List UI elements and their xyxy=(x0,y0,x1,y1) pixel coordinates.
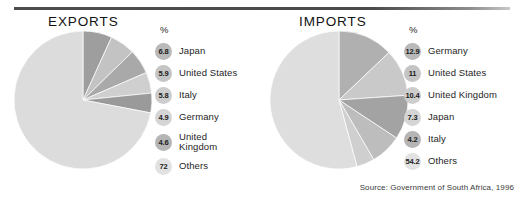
exports-pie-svg xyxy=(13,30,153,170)
imports-legend-rows: 12.9Germany11United States10.4United Kin… xyxy=(404,41,497,172)
imports-legend-item: 12.9Germany xyxy=(404,41,497,62)
imports-legend-label: Germany xyxy=(428,46,468,57)
imports-legend-value-badge: 7.3 xyxy=(404,109,421,126)
header-rule xyxy=(14,7,510,10)
exports-legend-item: 72Others xyxy=(155,156,237,177)
exports-legend-item: 4.9Germany xyxy=(155,107,237,128)
clipped-top-text xyxy=(180,0,360,2)
imports-legend-label: United States xyxy=(428,68,486,79)
exports-legend-label: Italy xyxy=(179,90,197,101)
source-note: Source: Government of South Africa, 1996 xyxy=(360,183,514,192)
imports-legend-item: 54.2Others xyxy=(404,151,497,172)
exports-legend: % 6.8Japan5.9United States5.8Italy4.9Ger… xyxy=(155,24,237,178)
imports-legend-value-badge: 54.2 xyxy=(404,153,421,170)
imports-legend-item: 7.3Japan xyxy=(404,107,497,128)
exports-legend-value-badge: 6.8 xyxy=(155,43,172,60)
exports-legend-label: Germany xyxy=(179,112,219,123)
exports-legend-value-badge: 4.6 xyxy=(155,134,172,151)
exports-legend-item: 4.6United Kingdom xyxy=(155,129,237,155)
exports-legend-rows: 6.8Japan5.9United States5.8Italy4.9Germa… xyxy=(155,41,237,177)
infographic-root: EXPORTS % 6.8Japan5.9United States5.8Ita… xyxy=(0,0,520,197)
imports-legend-label: United Kingdom xyxy=(428,90,497,101)
imports-pie-chart xyxy=(269,30,409,174)
imports-percent-header: % xyxy=(409,24,497,35)
exports-legend-value-badge: 5.8 xyxy=(155,87,172,104)
exports-legend-label: United States xyxy=(179,68,237,79)
exports-legend-value-badge: 4.9 xyxy=(155,109,172,126)
exports-legend-item: 5.8Italy xyxy=(155,85,237,106)
imports-legend-label: Others xyxy=(428,156,457,167)
exports-legend-label: Japan xyxy=(179,46,205,57)
exports-legend-value-badge: 5.9 xyxy=(155,65,172,82)
imports-legend-label: Japan xyxy=(428,112,454,123)
imports-legend-value-badge: 12.9 xyxy=(404,43,421,60)
exports-legend-item: 5.9United States xyxy=(155,63,237,84)
exports-legend-value-badge: 72 xyxy=(155,158,172,175)
imports-legend-item: 11United States xyxy=(404,63,497,84)
exports-title: EXPORTS xyxy=(48,14,119,29)
imports-legend-value-badge: 11 xyxy=(404,65,421,82)
imports-legend-value-badge: 10.4 xyxy=(404,87,421,104)
exports-slice-group xyxy=(14,31,152,169)
exports-legend-label: Others xyxy=(179,161,208,172)
imports-pie-svg xyxy=(269,30,409,170)
imports-legend: % 12.9Germany11United States10.4United K… xyxy=(404,24,497,173)
imports-legend-value-badge: 4.2 xyxy=(404,131,421,148)
exports-legend-label: United Kingdom xyxy=(179,132,217,153)
imports-legend-item: 10.4United Kingdom xyxy=(404,85,497,106)
imports-title: IMPORTS xyxy=(299,14,367,29)
exports-legend-item: 6.8Japan xyxy=(155,41,237,62)
exports-pie-chart xyxy=(13,30,153,174)
exports-percent-header: % xyxy=(160,24,237,35)
imports-legend-item: 4.2Italy xyxy=(404,129,497,150)
imports-slice-group xyxy=(270,31,408,169)
imports-legend-label: Italy xyxy=(428,134,446,145)
